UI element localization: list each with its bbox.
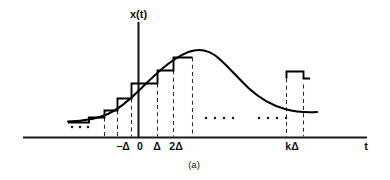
tick-label-minus-delta: −Δ xyxy=(116,140,130,152)
figure-caption: (a) xyxy=(188,159,200,170)
ellipsis-dot xyxy=(71,126,74,129)
tick-label-two-delta: 2Δ xyxy=(169,140,183,152)
tick-label-delta: Δ xyxy=(153,140,161,152)
ellipsis-dot xyxy=(267,117,270,120)
y-axis-label: x(t) xyxy=(130,8,147,20)
sampled-signal-figure: x(t) t −Δ 0 Δ 2Δ kΔ (a) xyxy=(0,0,390,180)
ellipsis-dot xyxy=(79,126,82,129)
ellipsis-dot xyxy=(214,117,217,120)
staircase-path-left xyxy=(68,58,193,123)
x-axis-label: t xyxy=(364,140,368,152)
tick-label-zero: 0 xyxy=(137,140,143,152)
ellipsis-dot xyxy=(258,117,261,120)
tick-label-k-delta: kΔ xyxy=(285,140,299,152)
middle-ellipsis xyxy=(205,117,235,120)
ellipsis-dot xyxy=(276,117,279,120)
ellipsis-dot xyxy=(205,117,208,120)
figure-container: x(t) t −Δ 0 Δ 2Δ kΔ (a) xyxy=(0,0,390,180)
ellipsis-dot xyxy=(87,126,90,129)
ellipsis-dot xyxy=(285,117,288,120)
ellipsis-dot xyxy=(232,117,235,120)
left-ellipsis xyxy=(71,126,90,129)
ellipsis-dot xyxy=(223,117,226,120)
staircase-path-k-delta xyxy=(287,72,311,79)
right-ellipsis xyxy=(258,117,288,120)
